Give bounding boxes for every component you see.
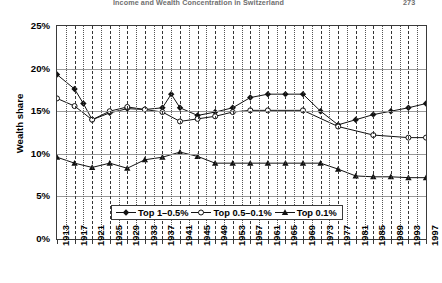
y-tick-label: 0% — [0, 234, 50, 244]
y-axis-title: Wealth share — [14, 79, 25, 169]
legend-label: Top 0.5–0.1% — [213, 208, 271, 218]
gridline-vertical — [92, 26, 93, 239]
x-tick-mark — [303, 240, 304, 244]
x-tick-mark — [145, 240, 146, 244]
legend-item: Top 0.5–0.1% — [190, 207, 273, 218]
data-point-marker — [123, 209, 129, 215]
x-tick-label: 1937 — [166, 225, 175, 246]
x-tick-label: 1969 — [307, 225, 316, 246]
legend-label: Top 0.1% — [297, 208, 337, 218]
x-tick-label: 1933 — [149, 225, 158, 246]
x-tick-label: 1921 — [96, 225, 105, 246]
x-tick-mark — [215, 240, 216, 244]
chart-legend: Top 1–0.5%Top 0.5–0.1%Top 0.1% — [111, 205, 343, 220]
x-tick-label: 1917 — [79, 225, 88, 246]
legend-swatch — [115, 207, 137, 218]
gridline-vertical-minor — [417, 26, 418, 239]
gridline-vertical-minor — [400, 26, 401, 239]
x-tick-label: 1993 — [412, 225, 421, 246]
x-tick-mark — [127, 240, 128, 244]
x-tick-mark — [285, 240, 286, 244]
x-tick-label: 1913 — [61, 225, 70, 246]
x-tick-label: 1973 — [325, 225, 334, 246]
y-tick-label: 10% — [0, 149, 50, 159]
y-tick-label: 15% — [0, 106, 50, 116]
x-tick-label: 1953 — [237, 225, 246, 246]
gridline-vertical — [391, 26, 392, 239]
gridline-vertical — [408, 26, 409, 239]
gridline-vertical-minor — [382, 26, 383, 239]
x-tick-mark — [180, 240, 181, 244]
x-tick-mark — [391, 240, 392, 244]
x-tick-mark — [110, 240, 111, 244]
x-tick-mark — [426, 240, 427, 244]
gridline-vertical — [373, 26, 374, 239]
gridline-vertical — [75, 26, 76, 239]
data-point-marker — [57, 154, 60, 160]
x-tick-mark — [338, 240, 339, 244]
gridline-vertical-minor — [101, 26, 102, 239]
data-point-marker — [57, 96, 60, 101]
x-tick-label: 1957 — [254, 225, 263, 246]
legend-swatch — [274, 207, 296, 218]
y-tick-label: 20% — [0, 64, 50, 74]
x-tick-label: 1989 — [395, 225, 404, 246]
y-tick-label: 5% — [0, 191, 50, 201]
x-tick-label: 1949 — [219, 225, 228, 246]
x-tick-mark — [233, 240, 234, 244]
x-tick-label: 1985 — [377, 225, 386, 246]
x-tick-mark — [408, 240, 409, 244]
x-tick-mark — [162, 240, 163, 244]
x-tick-mark — [373, 240, 374, 244]
x-tick-label: 1945 — [202, 225, 211, 246]
gridline-vertical-minor — [365, 26, 366, 239]
legend-item: Top 1–0.5% — [115, 207, 190, 218]
gridline-vertical-minor — [83, 26, 84, 239]
x-tick-label: 1997 — [430, 225, 439, 246]
gridline-vertical — [426, 26, 427, 239]
gridline-vertical — [356, 26, 357, 239]
x-tick-label: 1961 — [272, 225, 281, 246]
x-tick-mark — [92, 240, 93, 244]
wealth-share-chart-figure: Income and Wealth Concentration in Switz… — [0, 0, 442, 283]
legend-swatch — [190, 207, 212, 218]
x-tick-label: 1965 — [289, 225, 298, 246]
x-tick-label: 1981 — [360, 225, 369, 246]
legend-item: Top 0.1% — [274, 207, 339, 218]
data-point-marker — [199, 210, 204, 215]
x-tick-mark — [321, 240, 322, 244]
x-tick-mark — [250, 240, 251, 244]
x-tick-mark — [356, 240, 357, 244]
x-tick-label: 1941 — [184, 225, 193, 246]
x-tick-mark — [57, 240, 58, 244]
x-tick-mark — [75, 240, 76, 244]
x-tick-label: 1925 — [114, 225, 123, 246]
gridline-vertical-minor — [66, 26, 67, 239]
gridline-vertical-minor — [347, 26, 348, 239]
x-tick-mark — [198, 240, 199, 244]
legend-label: Top 1–0.5% — [138, 208, 188, 218]
x-tick-label: 1929 — [131, 225, 140, 246]
x-tick-mark — [268, 240, 269, 244]
x-tick-label: 1977 — [342, 225, 351, 246]
y-tick-label: 25% — [0, 21, 50, 31]
